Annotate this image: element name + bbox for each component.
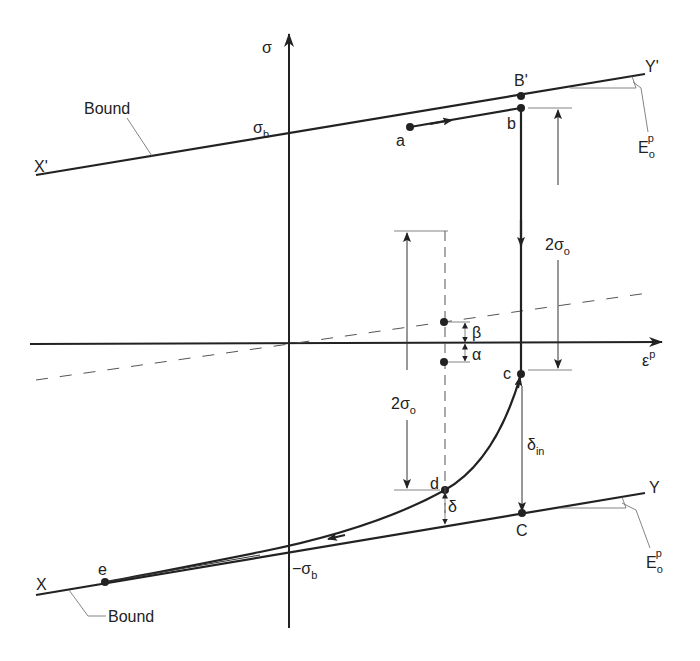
upper-slope-label: Eop [638, 132, 655, 160]
upper-bound-tag: Bound [84, 100, 130, 117]
delta-in-label: δin [527, 436, 544, 457]
center-line-dashed [36, 293, 648, 380]
point-a [406, 123, 414, 131]
point-a-label: a [396, 132, 405, 149]
left-dim-label: 2σo [391, 395, 416, 416]
strain-axis-label: εp [642, 348, 655, 369]
beta-label: β [472, 324, 481, 341]
point-b-prime-label: B' [514, 72, 528, 89]
lower-slope-leader [622, 503, 650, 548]
lower-bound-start-label: X [36, 576, 47, 593]
sigma-axis-label: σ [262, 39, 272, 56]
lower-bound-line [36, 493, 645, 595]
reloading-curve-c-d-e [105, 374, 521, 582]
point-alpha-center [440, 358, 448, 366]
diagram-svg: σ εp X' Y' Bound σb Eop X Y Bound −σb Eo… [0, 0, 700, 661]
strain-axis [30, 342, 662, 344]
point-e-label: e [98, 561, 107, 578]
point-d-label: d [430, 475, 439, 492]
upper-bound-end-label: Y' [645, 58, 659, 75]
lower-slope-label: Eop [646, 547, 663, 575]
upper-slope-leader [633, 82, 648, 132]
curve-tail-to-e [105, 555, 260, 582]
delta-label: δ [448, 498, 457, 515]
lower-bound-tag: Bound [108, 608, 154, 625]
curve-c-arrow [518, 377, 520, 388]
lower-bound-tag-leader [69, 590, 106, 616]
plasticity-diagram: σ εp X' Y' Bound σb Eop X Y Bound −σb Eo… [0, 0, 700, 661]
alpha-label: α [472, 346, 481, 363]
lower-intercept-label: −σb [292, 560, 317, 581]
lower-bound-end-label: Y [649, 479, 660, 496]
point-b-prime [517, 92, 525, 100]
point-C-label: C [516, 522, 528, 539]
point-beta-center [440, 318, 448, 326]
point-b-label: b [507, 115, 516, 132]
point-c-label: c [503, 365, 511, 382]
point-e [101, 578, 109, 586]
right-dim-label: 2σo [545, 236, 570, 257]
upper-bound-line [36, 74, 645, 175]
point-C [518, 509, 526, 517]
upper-bound-start-label: X' [34, 158, 48, 175]
upper-bound-tag-leader [127, 118, 152, 156]
